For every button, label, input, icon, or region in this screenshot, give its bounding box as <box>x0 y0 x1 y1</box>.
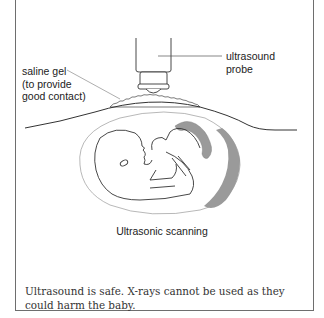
diagram-caption: Ultrasonic scanning <box>0 225 324 237</box>
note-text: Ultrasound is safe. X-rays cannot be use… <box>25 285 315 312</box>
fetus-drawing <box>95 128 200 200</box>
gel-label: saline gel (to provide good contact) <box>22 65 86 103</box>
ultrasound-diagram <box>0 0 324 318</box>
probe-label: ultrasound probe <box>226 50 275 75</box>
ultrasound-probe-icon <box>136 38 171 93</box>
umbilical-cord <box>175 121 212 158</box>
